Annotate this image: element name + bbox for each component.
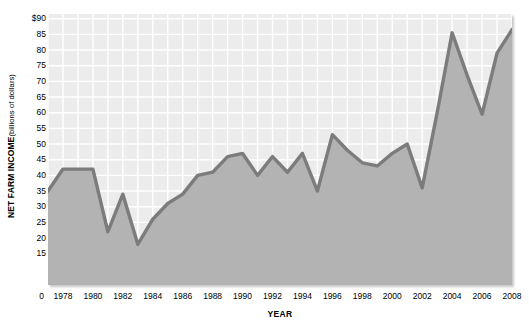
y-axis-tick-labels: $90858075706560555045403530252015 [20,0,46,331]
net-farm-income-chart: NET FARM INCOME(billions of dollars) $90… [0,0,529,331]
x-tick-label: 2008 [492,291,529,301]
y-tick-label: 60 [20,108,46,117]
y-tick-label: 55 [20,124,46,133]
y-tick-label: 15 [20,249,46,258]
y-tick-label: 40 [20,171,46,180]
y-tick-label: 30 [20,202,46,211]
x-axis-title: YEAR [48,309,512,319]
area-fill [48,30,512,285]
y-tick-label: 25 [20,218,46,227]
y-tick-label: 75 [20,61,46,70]
y-tick-label: 65 [20,93,46,102]
y-tick-label: $90 [20,14,46,23]
y-tick-label: 70 [20,77,46,86]
plot-area [48,14,512,285]
y-axis-title-main: NET FARM INCOME [6,137,16,218]
y-tick-label: 45 [20,155,46,164]
chart-plot-svg [48,14,512,285]
y-axis-title-sub: (billions of dollars) [7,74,16,137]
x-axis-tick-labels: 1978198019821984198619881990199219941996… [0,291,529,305]
y-tick-label: 85 [20,30,46,39]
y-tick-label: 20 [20,234,46,243]
y-axis-title: NET FARM INCOME(billions of dollars) [0,0,22,292]
y-tick-label: 35 [20,187,46,196]
y-tick-label: 50 [20,140,46,149]
y-tick-label: 80 [20,46,46,55]
